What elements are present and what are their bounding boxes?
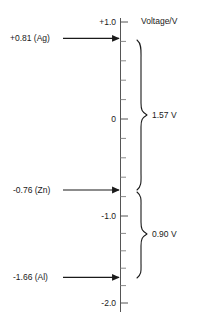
point-label-al: -1.66 (Al) — [13, 273, 48, 282]
voltage-scale-diagram: Voltage/V +1.0 0 -1.0 -2.0 +0.81 (Ag) -0… — [0, 0, 199, 328]
axis-minor-ticks — [121, 41, 127, 285]
tick-label-minus-2: -2.0 — [75, 299, 116, 308]
value-pointer-arrows — [63, 38, 119, 277]
tick-label-minus-1: -1.0 — [75, 212, 116, 221]
point-label-zn: -0.76 (Zn) — [13, 186, 50, 195]
brace-lower — [137, 192, 147, 278]
tick-label-zero: 0 — [75, 115, 116, 124]
point-label-ag: +0.81 (Ag) — [10, 34, 50, 43]
axis-title: Voltage/V — [141, 17, 177, 26]
brace-upper — [137, 40, 147, 190]
tick-label-plus-1: +1.0 — [75, 18, 116, 27]
axis-major-ticks — [121, 22, 129, 303]
span-label-lower: 0.90 V — [152, 230, 177, 239]
span-label-upper: 1.57 V — [152, 111, 177, 120]
